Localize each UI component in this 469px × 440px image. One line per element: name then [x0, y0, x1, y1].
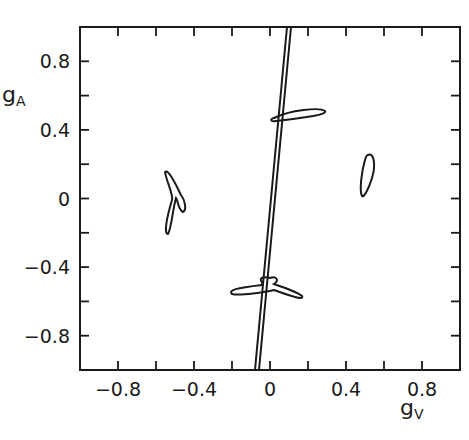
plot-content	[165, 27, 374, 370]
y-tick-labels: 0.80.40−0.4−0.8	[24, 50, 70, 346]
chart: −0.8−0.400.40.8 0.80.40−0.4−0.8 gV gA	[0, 0, 469, 440]
x-tick-labels: −0.8−0.400.40.8	[95, 378, 437, 400]
y-tick-label: 0.8	[40, 50, 70, 72]
y-tick-label: 0	[58, 188, 70, 210]
contour-right	[361, 155, 374, 197]
band-line-right	[259, 27, 291, 370]
x-tick-label: −0.8	[95, 378, 141, 400]
x-tick-label: −0.4	[171, 378, 217, 400]
x-tick-label: 0	[264, 378, 276, 400]
band-line-left	[255, 27, 287, 370]
y-tick-label: −0.4	[24, 256, 70, 278]
y-tick-label: −0.8	[24, 325, 70, 347]
contour-left	[165, 171, 185, 234]
y-tick-label: 0.4	[40, 119, 70, 141]
y-axis-label: gA	[2, 82, 26, 109]
x-tick-label: 0.4	[331, 378, 361, 400]
